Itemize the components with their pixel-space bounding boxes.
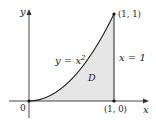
origin-label: 0	[20, 104, 26, 113]
line-equation-label: x = 1	[119, 53, 146, 63]
point-1-1-label: (1, 1)	[118, 10, 141, 19]
y-axis-arrow-icon	[27, 9, 32, 15]
diagram-canvas: y x 0 (1, 1) (1, 0) y = x2 x = 1 D	[0, 0, 156, 122]
point-1-0	[112, 99, 115, 102]
x-axis-label: x	[143, 105, 149, 115]
point-origin	[27, 99, 30, 102]
point-1-1	[112, 12, 115, 15]
curve-equation-label: y = x2	[55, 56, 86, 66]
point-1-0-label: (1, 0)	[104, 105, 127, 114]
curve-equation-exponent: 2	[81, 54, 85, 62]
curve-equation-lhs: y = x	[55, 55, 81, 66]
x-axis-arrow-icon	[143, 99, 149, 104]
region-label: D	[88, 73, 96, 83]
y-axis-label: y	[20, 7, 26, 17]
